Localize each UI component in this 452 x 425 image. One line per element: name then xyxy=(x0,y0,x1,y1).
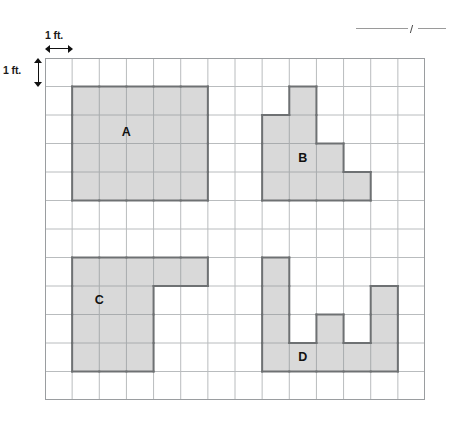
decorative-rule xyxy=(356,24,446,34)
unit-grid: ABCD xyxy=(45,58,425,400)
vertical-scale-label: 1 ft. xyxy=(3,64,21,76)
vertical-scale-arrow-icon xyxy=(34,58,43,87)
horizontal-scale-label: 1 ft. xyxy=(45,29,63,41)
arrow-head-down-icon xyxy=(34,82,42,87)
shape-a xyxy=(72,87,208,201)
shape-d xyxy=(262,258,398,372)
arrow-shaft xyxy=(38,61,39,84)
rule-segment-right xyxy=(418,28,446,29)
grid-canvas xyxy=(45,58,425,400)
arrow-shaft xyxy=(48,48,70,49)
rule-segment-left xyxy=(356,28,408,29)
rule-tick-icon xyxy=(410,25,413,33)
horizontal-scale-arrow-icon xyxy=(45,44,73,53)
arrow-head-right-icon xyxy=(68,45,73,53)
